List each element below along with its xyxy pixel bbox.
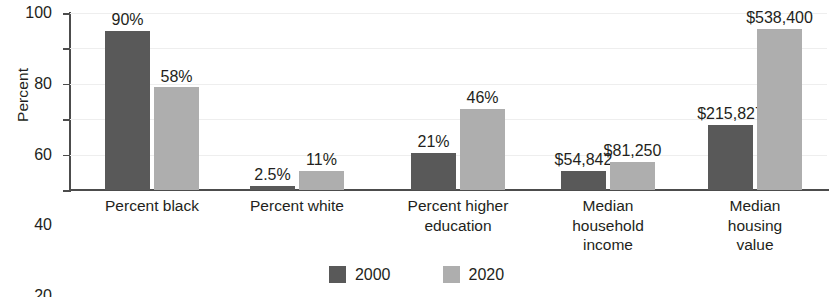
x-axis-label-line: Percent higher bbox=[378, 196, 538, 216]
bar: $54,842 bbox=[561, 171, 606, 190]
bar-value-label: 90% bbox=[111, 12, 143, 29]
x-axis-label-line: education bbox=[378, 216, 538, 236]
bar: 21% bbox=[411, 153, 456, 190]
x-axis-label: Percent white bbox=[217, 196, 377, 216]
x-axis-label-line: housing bbox=[675, 216, 833, 236]
bar: $81,250 bbox=[610, 162, 655, 190]
bar: 90% bbox=[105, 31, 150, 190]
y-tick-mark: 40 bbox=[63, 119, 70, 121]
x-axis-label-line: Percent black bbox=[72, 196, 232, 216]
y-tick-mark: 80 bbox=[63, 48, 70, 50]
bar-value-label: $215,827 bbox=[697, 106, 764, 123]
bar: $215,827 bbox=[708, 125, 753, 190]
bar: 11% bbox=[299, 171, 344, 190]
bar-value-label: 2.5% bbox=[254, 167, 290, 184]
x-axis-label: Percent black bbox=[72, 196, 232, 216]
legend-swatch-icon bbox=[443, 266, 460, 283]
gridline bbox=[70, 13, 827, 14]
x-axis-label-line: Percent white bbox=[217, 196, 377, 216]
y-tick-label: 80 bbox=[34, 76, 52, 92]
y-tick-label: 60 bbox=[34, 147, 52, 163]
bar: 2.5% bbox=[250, 186, 295, 190]
bar-value-label: 21% bbox=[417, 134, 449, 151]
gridline bbox=[70, 48, 827, 49]
bar-value-label: 11% bbox=[306, 152, 337, 169]
legend-item[interactable]: 2000 bbox=[329, 266, 391, 283]
legend-label: 2020 bbox=[469, 267, 505, 283]
x-axis-label: Percent highereducation bbox=[378, 196, 538, 235]
y-axis-title: Percent bbox=[14, 35, 32, 155]
bar: $538,400 bbox=[757, 29, 802, 190]
legend-item[interactable]: 2020 bbox=[443, 266, 505, 283]
y-tick-mark: 0 bbox=[63, 190, 70, 192]
legend-swatch-icon bbox=[329, 266, 346, 283]
x-axis-label-line: household bbox=[528, 216, 688, 236]
y-tick-mark: 100 bbox=[63, 13, 70, 15]
x-axis-label-line: income bbox=[528, 235, 688, 255]
legend: 20002020 bbox=[0, 266, 833, 283]
y-tick-mark: 20 bbox=[63, 155, 70, 157]
x-axis-label-line: Median bbox=[675, 196, 833, 216]
plot-area: 020406080100 90%58%2.5%11%21%46%$54,842$… bbox=[70, 13, 827, 190]
x-axis-label: Medianhousingvalue bbox=[675, 196, 833, 255]
bar-value-label: $81,250 bbox=[604, 143, 662, 160]
y-tick-label: 100 bbox=[25, 5, 52, 21]
y-tick-mark: 60 bbox=[63, 84, 70, 86]
bar: 58% bbox=[154, 87, 199, 190]
bar: 46% bbox=[460, 109, 505, 190]
bar-value-label: $538,400 bbox=[746, 10, 813, 27]
y-tick-label: 40 bbox=[34, 217, 52, 233]
bar-value-label: 58% bbox=[160, 69, 192, 86]
legend-label: 2000 bbox=[355, 267, 391, 283]
x-axis-label-line: value bbox=[675, 235, 833, 255]
bar-value-label: 46% bbox=[466, 90, 498, 107]
x-axis-label: Medianhouseholdincome bbox=[528, 196, 688, 255]
x-axis-label-line: Median bbox=[528, 196, 688, 216]
grouped-bar-chart: Percent 020406080100 90%58%2.5%11%21%46%… bbox=[0, 0, 833, 297]
y-tick-label: 20 bbox=[34, 288, 52, 297]
